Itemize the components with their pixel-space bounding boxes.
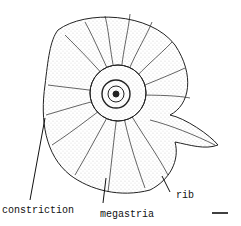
label-megastria: megastria [100, 210, 154, 220]
inner-whorls [90, 65, 146, 121]
label-rib: rib [176, 191, 194, 201]
label-constriction: constriction [2, 206, 74, 216]
ammonite-drawing [0, 0, 241, 226]
